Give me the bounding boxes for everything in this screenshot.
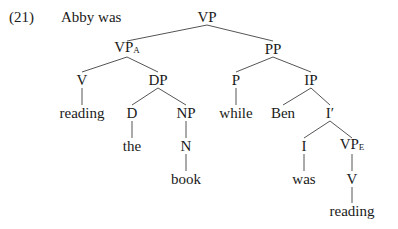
tree-node-v2: V [347, 172, 358, 187]
tree-node-reading1: reading [60, 106, 105, 121]
node-label: reading [60, 105, 105, 121]
tree-edge [158, 88, 186, 105]
syntax-tree-diagram: (21) Abby was VPVPAPPVDPPIPreadingDNPwhi… [0, 0, 398, 229]
tree-edge [236, 57, 273, 72]
tree-edge [283, 88, 311, 105]
tree-node-ibar: I′ [326, 106, 334, 121]
tree-edge [127, 57, 158, 72]
node-label: V [77, 72, 88, 88]
tree-edge [304, 121, 330, 138]
node-label: the [123, 138, 141, 154]
node-label: while [219, 105, 252, 121]
tree-node-while: while [219, 106, 252, 121]
node-subscript: A [133, 45, 140, 55]
node-label: I [302, 138, 307, 154]
tree-node-vpe: VPE [340, 137, 365, 155]
node-label: VP [114, 39, 133, 55]
tree-node-v1: V [77, 73, 88, 88]
node-label: D [127, 105, 138, 121]
tree-node-reading2: reading [330, 204, 375, 219]
node-label: VP [197, 9, 216, 25]
tree-edge [82, 57, 127, 72]
tree-edge [127, 25, 207, 41]
node-label: IP [304, 72, 317, 88]
node-label: book [171, 171, 201, 187]
tree-node-dp: DP [148, 73, 167, 88]
node-label: Ben [271, 105, 295, 121]
node-label: N [181, 138, 192, 154]
tree-node-pp: PP [265, 42, 282, 57]
tree-node-book: book [171, 172, 201, 187]
tree-node-ip: IP [304, 73, 317, 88]
node-label: NP [176, 105, 195, 121]
node-label: V [347, 171, 358, 187]
tree-node-ben: Ben [271, 106, 295, 121]
tree-node-vpa: VPA [114, 40, 140, 58]
node-label: was [292, 171, 315, 187]
tree-node-np: NP [176, 106, 195, 121]
tree-edge [132, 88, 158, 105]
tree-node-was: was [292, 172, 315, 187]
tree-node-i: I [302, 139, 307, 154]
tree-edge [311, 88, 330, 105]
tree-edge [207, 25, 273, 41]
node-label: P [232, 72, 240, 88]
tree-node-the: the [123, 139, 141, 154]
tree-node-d: D [127, 106, 138, 121]
tree-node-p: P [232, 73, 240, 88]
node-subscript: E [359, 142, 365, 152]
node-label: PP [265, 41, 282, 57]
node-label: reading [330, 203, 375, 219]
node-label: I′ [326, 105, 334, 121]
node-label: DP [148, 72, 167, 88]
node-label: VP [340, 136, 359, 152]
tree-node-vp: VP [197, 10, 216, 25]
tree-node-n: N [181, 139, 192, 154]
tree-edge [273, 57, 311, 72]
